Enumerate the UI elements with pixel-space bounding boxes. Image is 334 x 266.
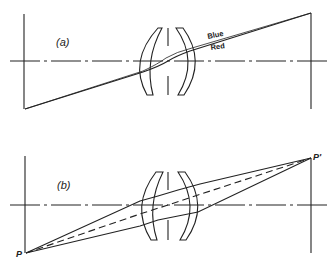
lens-diagram: (a) Blue Red (b) P P' [0, 0, 334, 266]
panel-b [10, 156, 330, 253]
object-point-label: P [16, 249, 23, 259]
panel-a [10, 13, 330, 109]
panel-b-label: (b) [57, 179, 71, 191]
red-ray-label: Red [210, 41, 226, 52]
lens-front-element-b [142, 172, 163, 240]
lens-rear-element-b [178, 172, 198, 240]
image-point-label: P' [313, 152, 322, 162]
panel-a-label: (a) [56, 36, 70, 48]
